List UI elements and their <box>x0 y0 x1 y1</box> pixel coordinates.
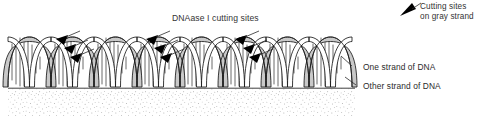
legend-marker <box>400 3 421 16</box>
legend-line-2: on gray strand <box>420 12 474 22</box>
dna-cutting-sites-figure: DNAase I cutting sites Cutting sites on … <box>0 0 477 123</box>
stippled-surface <box>8 88 355 116</box>
legend-line-1: Cutting sites <box>420 2 466 11</box>
chart-title: DNAase I cutting sites <box>172 13 259 23</box>
one-strand-of-dna-label: One strand of DNA <box>363 63 435 73</box>
other-strand-of-dna-label: Other strand of DNA <box>363 82 441 92</box>
legend-label: Cutting sites on gray strand <box>420 2 474 21</box>
